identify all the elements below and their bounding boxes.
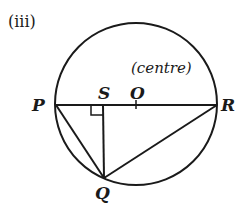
label-P: P xyxy=(31,95,46,115)
label-Q: Q xyxy=(95,183,110,203)
perpendicular-SQ xyxy=(103,105,104,178)
part-label: (iii) xyxy=(8,12,36,31)
right-angle-marker xyxy=(91,105,103,115)
label-R: R xyxy=(220,95,235,115)
centre-note: (centre) xyxy=(131,59,192,77)
label-O: O xyxy=(130,83,145,103)
geometry-diagram: (iii) (centre) P S O R Q xyxy=(0,0,252,203)
label-S: S xyxy=(98,83,110,103)
chord-QR xyxy=(104,105,217,178)
